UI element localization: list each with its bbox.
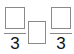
right-numerator-input[interactable] [51,7,71,29]
comparison-input[interactable] [28,21,46,44]
left-denominator: 3 [5,35,25,52]
left-numerator-input[interactable] [5,7,25,29]
right-denominator: 3 [51,35,71,52]
